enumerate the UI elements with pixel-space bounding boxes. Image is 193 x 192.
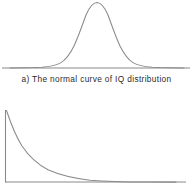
exponential-curve-path — [7, 111, 177, 183]
figure-container: a) The normal curve of IQ distribution — [0, 0, 193, 192]
exponential-curve-plot — [0, 104, 193, 192]
normal-curve-panel — [0, 0, 193, 72]
normal-curve-caption: a) The normal curve of IQ distribution — [0, 74, 193, 85]
exponential-curve-panel — [0, 104, 193, 192]
normal-curve-path — [10, 2, 184, 68]
normal-curve-plot — [0, 0, 193, 72]
